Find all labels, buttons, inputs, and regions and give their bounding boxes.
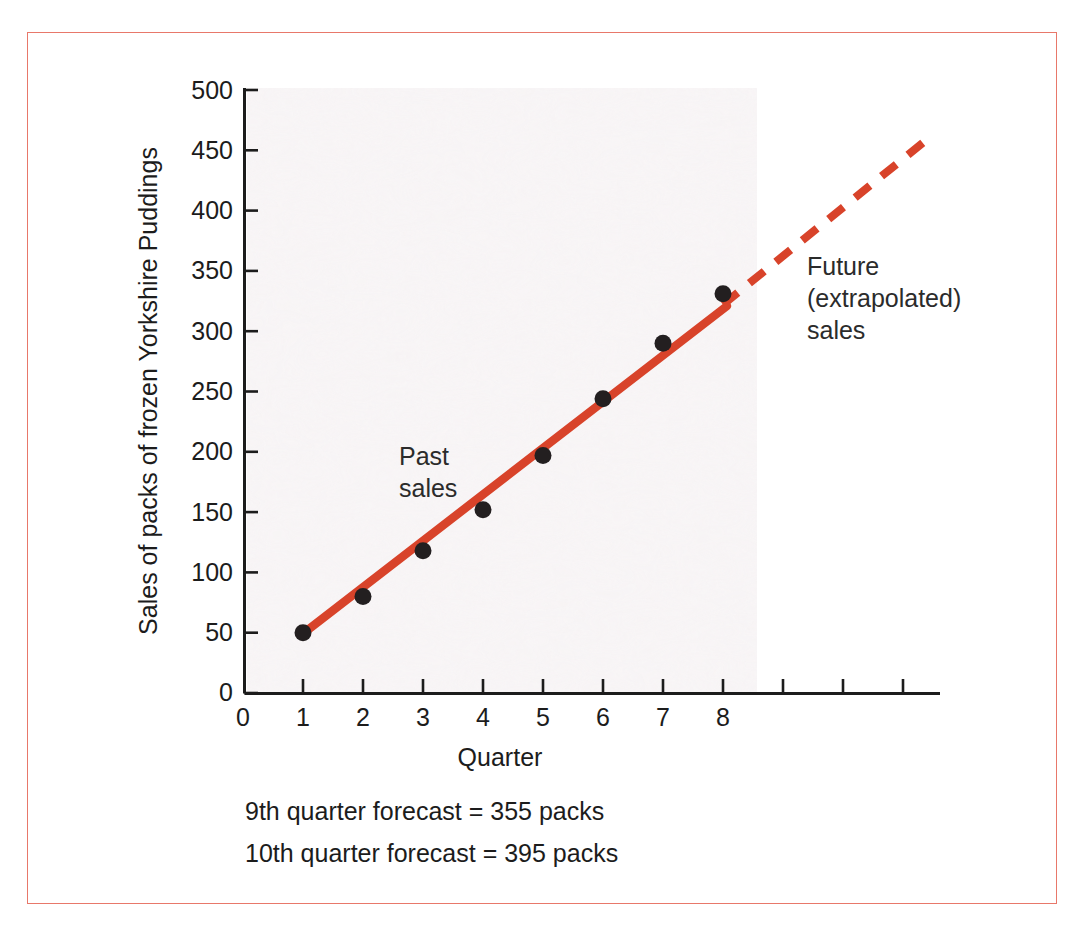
annotation-future-sales: Future (extrapolated) sales <box>807 252 961 344</box>
x-tick-label-6: 6 <box>596 703 610 731</box>
x-tick-label-7: 7 <box>656 703 670 731</box>
data-point <box>715 285 732 302</box>
data-point <box>595 390 612 407</box>
plot-background <box>247 88 757 692</box>
x-axis-title: Quarter <box>458 743 543 771</box>
x-tick-label-1: 1 <box>296 703 310 731</box>
data-point <box>475 501 492 518</box>
y-tick-label-250: 250 <box>191 377 233 405</box>
annotation-past-sales-line-1: Past <box>399 442 449 470</box>
y-tick-label-500: 500 <box>191 76 233 104</box>
chart-figure: 0 50 100 150 200 250 300 350 400 450 500… <box>0 0 1086 940</box>
x-tick-label-3: 3 <box>416 703 430 731</box>
x-tick-label-8: 8 <box>716 703 730 731</box>
data-point <box>415 542 432 559</box>
forecast-footnotes: 9th quarter forecast = 355 packs 10th qu… <box>245 797 618 867</box>
footnote-10th-quarter: 10th quarter forecast = 395 packs <box>245 839 618 867</box>
y-tick-label-0: 0 <box>219 678 233 706</box>
annotation-future-sales-line-2: (extrapolated) <box>807 284 961 312</box>
x-tick-label-4: 4 <box>476 703 490 731</box>
annotation-past-sales-line-2: sales <box>399 474 457 502</box>
x-axis-tick-labels: 0 1 2 3 4 5 6 7 8 <box>236 703 730 731</box>
data-point <box>295 624 312 641</box>
data-point <box>655 335 672 352</box>
footnote-9th-quarter: 9th quarter forecast = 355 packs <box>245 797 604 825</box>
y-tick-label-100: 100 <box>191 558 233 586</box>
x-tick-label-5: 5 <box>536 703 550 731</box>
data-point <box>535 447 552 464</box>
y-tick-label-300: 300 <box>191 317 233 345</box>
x-tick-label-0: 0 <box>236 703 250 731</box>
y-axis-title: Sales of packs of frozen Yorkshire Puddi… <box>134 147 162 635</box>
figure-page: 0 50 100 150 200 250 300 350 400 450 500… <box>0 0 1086 940</box>
annotation-future-sales-line-3: sales <box>807 316 865 344</box>
annotation-future-sales-line-1: Future <box>807 252 879 280</box>
y-axis-tick-labels: 0 50 100 150 200 250 300 350 400 450 500 <box>191 76 233 706</box>
y-tick-label-400: 400 <box>191 196 233 224</box>
data-point <box>355 588 372 605</box>
chart-canvas: 0 50 100 150 200 250 300 350 400 450 500… <box>0 0 1086 940</box>
y-tick-label-350: 350 <box>191 256 233 284</box>
y-tick-label-50: 50 <box>205 618 233 646</box>
y-tick-label-450: 450 <box>191 136 233 164</box>
x-tick-label-2: 2 <box>356 703 370 731</box>
y-tick-label-150: 150 <box>191 498 233 526</box>
y-tick-label-200: 200 <box>191 437 233 465</box>
